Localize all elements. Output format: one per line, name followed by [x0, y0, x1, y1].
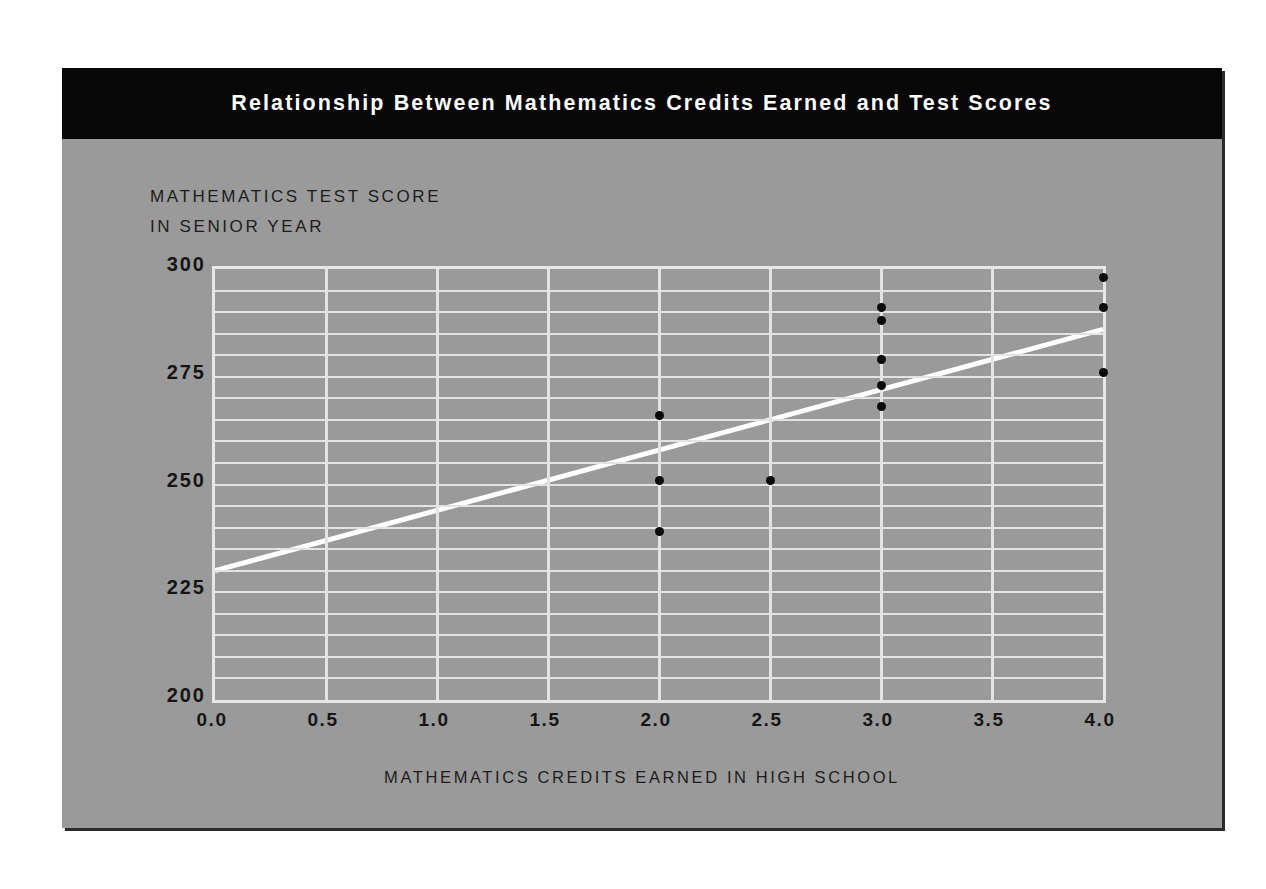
gridline-vertical [436, 269, 439, 700]
x-axis-tick-label: 0.0 [196, 709, 227, 731]
y-axis-tick-label: 225 [167, 576, 206, 599]
gridline-vertical [880, 269, 883, 700]
x-axis-tick-label: 1.5 [529, 709, 560, 731]
x-axis-tick-label: 2.0 [640, 709, 671, 731]
y-axis-tick-label: 250 [167, 469, 206, 492]
x-axis-tick-label: 4.0 [1084, 709, 1115, 731]
page-title: Relationship Between Mathematics Credits… [62, 68, 1222, 139]
x-axis-title: MATHEMATICS CREDITS EARNED IN HIGH SCHOO… [62, 768, 1222, 787]
y-axis-tick-label: 200 [167, 684, 206, 707]
x-axis-tick-label: 3.5 [973, 709, 1004, 731]
y-axis-title-line1: MATHEMATICS TEST SCORE [150, 182, 441, 212]
data-point [655, 411, 664, 420]
gridline-vertical [991, 269, 994, 700]
data-point [877, 381, 886, 390]
data-point [877, 402, 886, 411]
x-axis-tick-label: 3.0 [862, 709, 893, 731]
x-axis-tick-label: 0.5 [307, 709, 338, 731]
y-axis-tick-label: 300 [167, 253, 206, 276]
data-point [1099, 273, 1108, 282]
y-axis-tick-labels: 200225250275300 [148, 266, 206, 697]
x-axis-tick-label: 2.5 [751, 709, 782, 731]
x-axis-tick-label: 1.0 [418, 709, 449, 731]
gridline-vertical [325, 269, 328, 700]
data-point [1099, 368, 1108, 377]
data-point [766, 476, 775, 485]
plot-area [212, 266, 1106, 703]
data-point [877, 355, 886, 364]
title-band: Relationship Between Mathematics Credits… [62, 68, 1222, 139]
data-point [1099, 303, 1108, 312]
y-axis-title: MATHEMATICS TEST SCORE IN SENIOR YEAR [150, 182, 441, 242]
y-axis-tick-label: 275 [167, 361, 206, 384]
x-axis-tick-labels: 0.00.51.01.52.02.53.03.54.0 [212, 709, 1103, 739]
slide-canvas: Relationship Between Mathematics Credits… [62, 68, 1222, 828]
gridline-vertical [547, 269, 550, 700]
data-point [877, 316, 886, 325]
data-point [877, 303, 886, 312]
data-point [655, 476, 664, 485]
data-point [655, 527, 664, 536]
y-axis-title-line2: IN SENIOR YEAR [150, 212, 441, 242]
